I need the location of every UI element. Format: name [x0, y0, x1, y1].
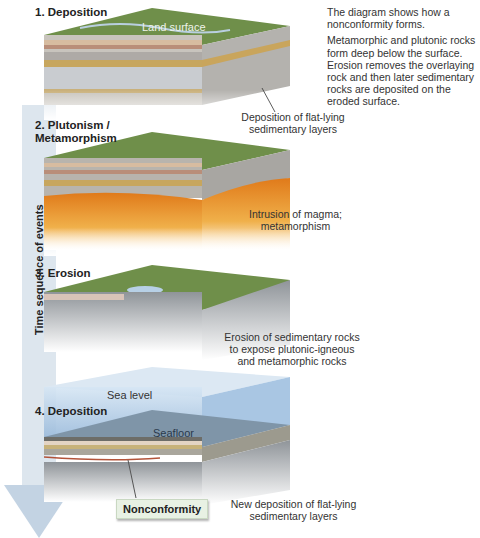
- block-2-plutonism: [44, 132, 294, 256]
- land-surface-label: Land surface: [142, 21, 206, 33]
- step-4-caption: New deposition of flat-lying sedimentary…: [226, 498, 361, 522]
- step-4-title: 4. Deposition: [35, 405, 107, 418]
- sea-level-label: Sea level: [107, 389, 152, 401]
- nonconformity-badge: Nonconformity: [116, 499, 208, 519]
- step-1-title: 1. Deposition: [35, 6, 107, 19]
- intro-text: The diagram shows how a nonconformity fo…: [327, 6, 477, 112]
- step-3-title: 3. Erosion: [35, 267, 91, 280]
- intro-line-1: The diagram shows how a nonconformity fo…: [327, 6, 477, 30]
- step-2-caption: Intrusion of magma; metamorphism: [238, 208, 353, 232]
- step-3-caption: Erosion of sedimentary rocks to expose p…: [222, 331, 362, 367]
- step-2-title: 2. Plutonism / Metamorphism: [35, 119, 145, 145]
- seafloor-label: Seafloor: [153, 427, 194, 439]
- step-1-caption: Deposition of flat-lying sedimentary lay…: [228, 111, 358, 135]
- intro-line-2: Metamorphic and plutonic rocks form deep…: [327, 34, 477, 107]
